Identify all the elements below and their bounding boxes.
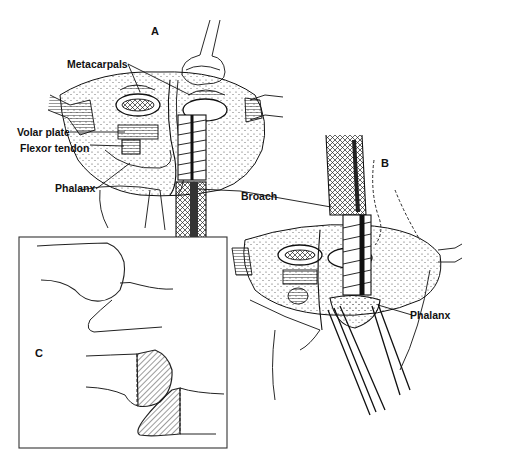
panel-label-b: B — [381, 158, 389, 169]
panel-a-drawing — [48, 20, 331, 248]
panel-label-a: A — [151, 26, 159, 37]
label-broach: Broach — [241, 191, 277, 202]
label-phalanx-a: Phalanx — [55, 183, 95, 194]
label-flexor-tendon: Flexor tendon — [20, 143, 89, 154]
panel-label-c: C — [35, 348, 43, 359]
label-metacarpals: Metacarpals — [67, 59, 128, 70]
panel-b-drawing — [232, 135, 462, 415]
panel-c-inset — [19, 237, 227, 448]
label-phalanx-b: Phalanx — [410, 310, 450, 321]
label-volar-plate: Volar plate — [17, 127, 70, 138]
